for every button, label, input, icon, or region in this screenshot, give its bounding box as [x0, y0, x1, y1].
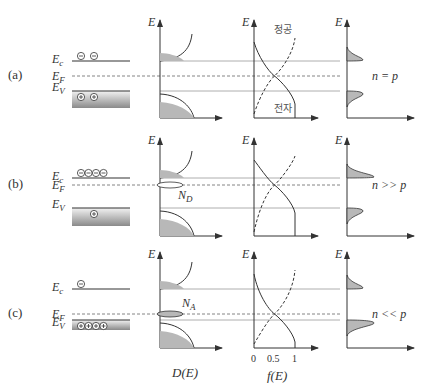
- band-diagram: EcEFEV: [51, 52, 130, 108]
- e-axis-label: E: [241, 15, 250, 29]
- carrier-relation: n = p: [372, 69, 398, 83]
- hole-fermi-curve: [254, 270, 295, 344]
- e-axis-label: E: [334, 133, 343, 147]
- dos-panel: E: [147, 15, 222, 118]
- occupied-electrons: [160, 53, 184, 61]
- donor-label: ND: [177, 188, 193, 204]
- fermi-tick-label: 0: [251, 353, 256, 364]
- ec-label: Ec: [51, 280, 63, 296]
- e-axis-label: E: [147, 133, 156, 147]
- fermi-panel: E정공전자: [241, 15, 318, 118]
- row-a: (a)EcEFEVEE정공전자En = p: [8, 15, 414, 118]
- fermi-panel: E: [241, 133, 318, 236]
- row-c: (c)EcEFEVENAEEn << p: [8, 247, 414, 348]
- e-axis-label: E: [147, 247, 156, 261]
- row-label: (a): [8, 67, 22, 82]
- valence-dos-fill: [160, 102, 194, 118]
- fermi-x-label: f(E): [267, 368, 287, 383]
- electron-concentration: [347, 275, 363, 289]
- row-label: (c): [8, 305, 22, 320]
- hole-concentration: [347, 91, 363, 107]
- valence-dos-fill: [160, 331, 194, 348]
- hole-concentration: [347, 320, 374, 336]
- semiconductor-band-diagram: (a)EcEFEVEE정공전자En = p(b)EcEFEVENDEEn >> …: [0, 0, 427, 384]
- hole-concentration: [347, 208, 363, 224]
- carrier-relation: n >> p: [372, 178, 406, 192]
- hole-label: 정공: [274, 24, 292, 35]
- e-axis-label: E: [147, 15, 156, 29]
- valence-band: [72, 208, 130, 226]
- dos-panel: END: [147, 133, 222, 236]
- e-axis-label: E: [334, 247, 343, 261]
- e-axis-label: E: [241, 247, 250, 261]
- acceptor-label: NA: [181, 296, 196, 312]
- dos-x-label: D(E): [171, 365, 198, 380]
- valence-dos-fill: [160, 219, 194, 236]
- fermi-panel: E: [241, 247, 318, 348]
- dos-panel: ENA: [147, 247, 222, 348]
- electron-concentration: [347, 47, 363, 61]
- fermi-tick-label: 0.5: [267, 353, 280, 364]
- electron-fermi-curve: [254, 274, 295, 348]
- row-b: (b)EcEFEVENDEEn >> p: [8, 133, 414, 236]
- occupied-electrons: [160, 170, 184, 178]
- ec-label: Ec: [51, 52, 63, 68]
- carrier-relation: n << p: [372, 307, 406, 321]
- acceptor-level: [157, 311, 183, 317]
- carrier-panel: En = p: [334, 15, 414, 118]
- occupied-electrons: [160, 281, 184, 289]
- e-axis-label: E: [241, 133, 250, 147]
- row-label: (b): [8, 176, 23, 191]
- ev-label: EV: [51, 197, 66, 213]
- electron-concentration: [347, 164, 374, 178]
- band-diagram: EcEFEV: [51, 280, 130, 331]
- e-axis-label: E: [334, 15, 343, 29]
- fermi-tick-label: 1: [292, 353, 297, 364]
- band-diagram: EcEFEV: [51, 169, 130, 226]
- carrier-panel: En >> p: [334, 133, 414, 236]
- hole-fermi-curve: [254, 156, 295, 232]
- electron-label: 전자: [274, 103, 292, 114]
- electron-fermi-curve: [254, 160, 295, 236]
- carrier-panel: En << p: [334, 247, 414, 348]
